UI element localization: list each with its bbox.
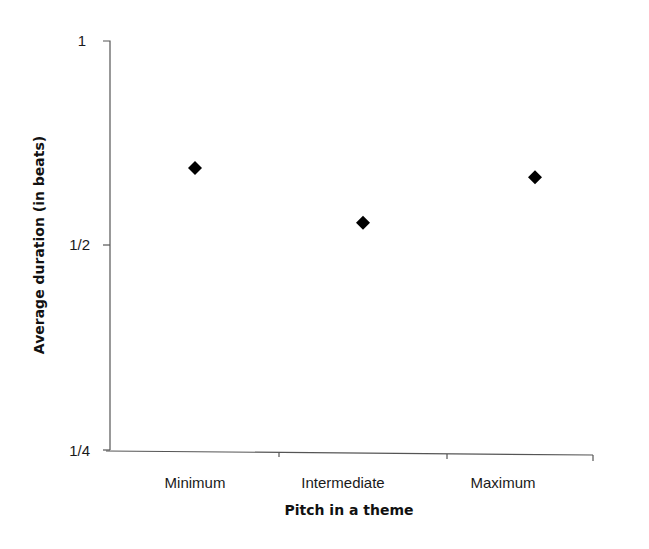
x-axis-line <box>106 451 593 455</box>
x-axis: Minimum Intermediate Maximum Pitch in a … <box>106 451 593 518</box>
x-axis-title: Pitch in a theme <box>284 502 413 518</box>
data-points <box>188 161 542 230</box>
y-tick-label-half: 1/2 <box>69 236 90 253</box>
y-axis-title: Average duration (in beats) <box>31 136 47 354</box>
x-category-maximum: Maximum <box>470 474 535 491</box>
y-tick-label-1: 1 <box>78 32 86 49</box>
scatter-chart: 1 1/2 1/4 Average duration (in beats) Mi… <box>0 0 649 549</box>
diamond-marker-minimum <box>188 161 202 175</box>
y-tick-label-quarter: 1/4 <box>69 442 90 459</box>
x-category-intermediate: Intermediate <box>301 474 384 491</box>
diamond-marker-maximum <box>528 170 542 184</box>
y-axis: 1 1/2 1/4 Average duration (in beats) <box>31 32 110 459</box>
x-category-minimum: Minimum <box>165 474 226 491</box>
diamond-marker-intermediate <box>356 216 370 230</box>
